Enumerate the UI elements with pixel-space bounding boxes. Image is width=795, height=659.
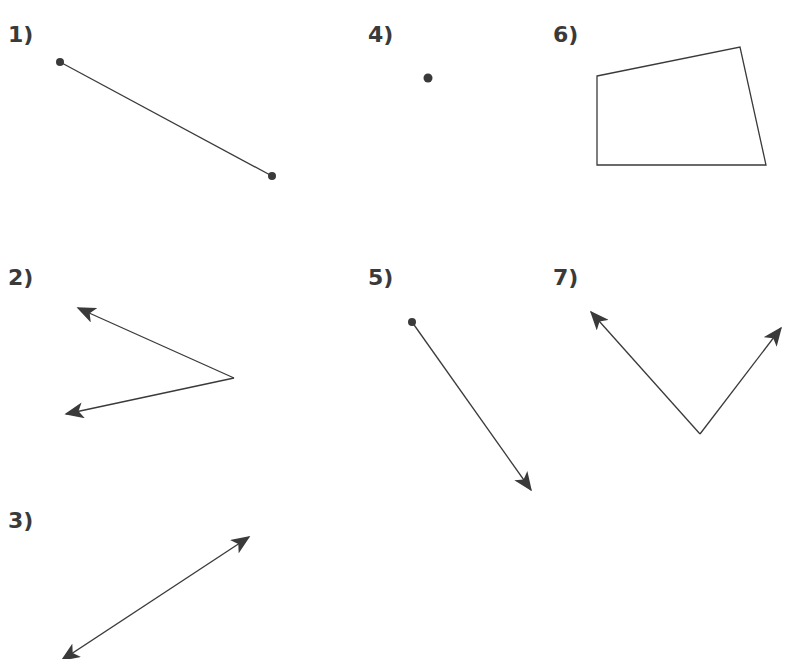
figure-5-ray — [408, 318, 531, 490]
point-icon — [424, 74, 433, 83]
endpoint-icon — [408, 318, 416, 326]
figure-1-segment — [56, 58, 276, 180]
figure-3-line — [62, 537, 249, 659]
endpoint-icon — [56, 58, 64, 66]
figure-4-point — [424, 74, 433, 83]
geometry-canvas — [0, 0, 795, 659]
endpoint-icon — [268, 172, 276, 180]
figure-7-angle — [591, 312, 781, 434]
figure-6-quadrilateral — [597, 47, 766, 165]
figure-2-angle-rays — [66, 308, 234, 414]
